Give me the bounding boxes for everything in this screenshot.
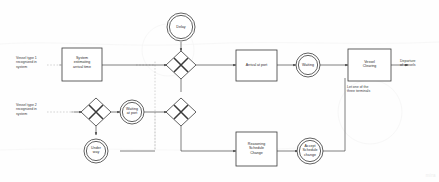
process-flow-svg bbox=[0, 0, 439, 182]
gateway-complex-top[interactable] bbox=[166, 51, 196, 79]
event-waiting-at-port-inner bbox=[122, 102, 141, 121]
gateway-complex-left[interactable] bbox=[81, 98, 111, 126]
event-delay-inner bbox=[169, 15, 192, 38]
event-under-way-inner bbox=[86, 141, 105, 160]
gateway-complex-bottom[interactable] bbox=[166, 98, 196, 126]
watermark: mira bbox=[426, 173, 436, 178]
task-arrival-at-port[interactable] bbox=[236, 50, 277, 81]
scan-artifacts bbox=[0, 24, 439, 150]
task-reasoning-schedule-change[interactable] bbox=[236, 132, 277, 166]
event-accept-schedule-change-inner bbox=[299, 140, 320, 161]
task-vessel-clearing[interactable] bbox=[348, 49, 391, 81]
diagram-canvas: Vessel type 1 recognized in system Vesse… bbox=[0, 0, 439, 182]
task-system-estimating-arrival-time[interactable] bbox=[62, 48, 102, 81]
event-waiting-inner bbox=[298, 55, 317, 74]
